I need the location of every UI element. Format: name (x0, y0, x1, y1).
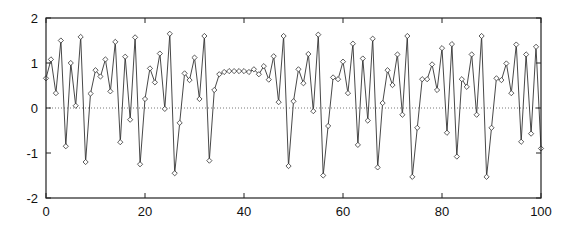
diamond-marker (326, 123, 331, 128)
diamond-marker (157, 51, 162, 56)
diamond-marker (78, 34, 83, 39)
diamond-marker (400, 112, 405, 117)
diamond-marker (430, 62, 435, 67)
diamond-marker (533, 44, 538, 49)
series-line (46, 34, 541, 177)
diamond-marker (454, 154, 459, 159)
diamond-marker (504, 61, 509, 66)
x-tick-label: 20 (138, 204, 152, 219)
diamond-marker (266, 77, 271, 82)
diamond-marker (321, 173, 326, 178)
diamond-marker (167, 31, 172, 36)
x-tick-label: 80 (435, 204, 449, 219)
diamond-marker (113, 39, 118, 44)
diamond-marker (192, 55, 197, 60)
diamond-marker (222, 69, 227, 74)
diamond-marker (370, 36, 375, 41)
diamond-marker (306, 51, 311, 56)
y-tick-label: 0 (31, 101, 38, 116)
diamond-marker (261, 64, 266, 69)
diamond-marker (58, 38, 63, 43)
diamond-marker (390, 82, 395, 87)
diamond-marker (217, 72, 222, 77)
diamond-marker (459, 77, 464, 82)
diamond-marker (291, 99, 296, 104)
diamond-marker (519, 139, 524, 144)
diamond-marker (509, 91, 514, 96)
diamond-marker (464, 84, 469, 89)
diamond-marker (246, 69, 251, 74)
diamond-marker (108, 89, 113, 94)
diamond-marker (296, 67, 301, 72)
diamond-marker (286, 163, 291, 168)
x-tick-label: 100 (530, 204, 552, 219)
diamond-marker (474, 112, 479, 117)
diamond-marker (345, 91, 350, 96)
diamond-marker (147, 66, 152, 71)
diamond-marker (73, 103, 78, 108)
diamond-marker (212, 87, 217, 92)
diamond-marker (380, 100, 385, 105)
diamond-marker (439, 46, 444, 51)
diamond-marker (177, 120, 182, 125)
diamond-marker (415, 125, 420, 130)
diamond-marker (123, 54, 128, 59)
diamond-marker (444, 130, 449, 135)
diamond-marker (83, 159, 88, 164)
x-tick-label: 60 (336, 204, 350, 219)
diamond-marker (301, 81, 306, 86)
diamond-marker (63, 144, 68, 149)
diamond-marker (524, 52, 529, 57)
diamond-marker (434, 87, 439, 92)
data-series (43, 31, 543, 179)
x-tick-label: 0 (42, 204, 49, 219)
diamond-marker (479, 33, 484, 38)
diamond-marker (484, 174, 489, 179)
diamond-marker (355, 142, 360, 147)
y-tick-label: -1 (26, 146, 38, 161)
diamond-marker (118, 140, 123, 145)
diamond-marker (53, 91, 58, 96)
diamond-marker (276, 100, 281, 105)
diamond-marker (68, 60, 73, 65)
diamond-marker (133, 35, 138, 40)
diamond-marker (365, 118, 370, 123)
diamond-marker (425, 77, 430, 82)
y-tick-label: -2 (26, 191, 38, 206)
diamond-marker (241, 69, 246, 74)
diamond-marker (410, 174, 415, 179)
diamond-marker (281, 33, 286, 38)
diamond-marker (88, 91, 93, 96)
diamond-marker (207, 158, 212, 163)
diamond-marker (385, 68, 390, 73)
line-chart: 020406080100 -2-1012 (0, 0, 577, 231)
diamond-marker (162, 106, 167, 111)
diamond-marker (142, 96, 147, 101)
diamond-marker (489, 125, 494, 130)
diamond-marker (172, 171, 177, 176)
x-tick-label: 40 (237, 204, 251, 219)
diamond-marker (197, 96, 202, 101)
diamond-marker (137, 162, 142, 167)
diamond-marker (48, 57, 53, 62)
diamond-marker (340, 59, 345, 64)
diamond-marker (316, 32, 321, 37)
y-tick-label: 1 (31, 56, 38, 71)
y-tick-label: 2 (31, 11, 38, 26)
diamond-marker (152, 80, 157, 85)
diamond-marker (202, 33, 207, 38)
diamond-marker (350, 41, 355, 46)
diamond-marker (360, 56, 365, 61)
diamond-marker (311, 109, 316, 114)
diamond-marker (514, 42, 519, 47)
diamond-marker (128, 117, 133, 122)
diamond-marker (375, 165, 380, 170)
diamond-marker (271, 54, 276, 59)
diamond-marker (449, 42, 454, 47)
diamond-marker (103, 57, 108, 62)
diamond-marker (529, 131, 534, 136)
diamond-marker (395, 52, 400, 57)
diamond-marker (469, 52, 474, 57)
diamond-marker (405, 33, 410, 38)
